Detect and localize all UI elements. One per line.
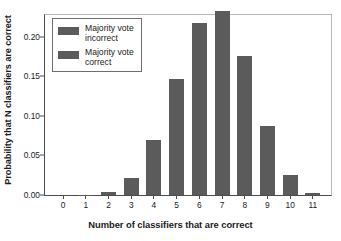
bar-slot bbox=[215, 15, 230, 195]
bar-slot bbox=[146, 15, 161, 195]
y-tick-mark bbox=[40, 36, 44, 37]
bar bbox=[260, 126, 275, 195]
legend-label: Majority vote correct bbox=[85, 47, 134, 67]
bar bbox=[283, 175, 298, 195]
x-tick: 2 bbox=[99, 195, 119, 210]
x-tick-mark bbox=[199, 195, 200, 199]
bar bbox=[169, 79, 184, 195]
x-tick: 6 bbox=[189, 195, 209, 210]
bar bbox=[215, 11, 230, 195]
bar-slot bbox=[169, 15, 184, 195]
y-tick-label: 0.20 bbox=[16, 32, 40, 42]
chart-legend: Majority vote incorrectMajority vote cor… bbox=[52, 18, 142, 72]
legend-swatch bbox=[58, 27, 79, 35]
x-tick-mark bbox=[108, 195, 109, 199]
x-tick: 3 bbox=[121, 195, 141, 210]
x-tick: 4 bbox=[144, 195, 164, 210]
x-tick-mark bbox=[85, 195, 86, 199]
x-tick-label: 1 bbox=[76, 200, 96, 210]
x-tick-label: 6 bbox=[189, 200, 209, 210]
bar-slot bbox=[192, 15, 207, 195]
x-axis-ticks: 01234567891011 bbox=[45, 195, 331, 219]
x-tick-mark bbox=[290, 195, 291, 199]
x-tick: 9 bbox=[257, 195, 277, 210]
x-tick-mark bbox=[176, 195, 177, 199]
x-axis-title: Number of classifiers that are correct bbox=[0, 219, 341, 230]
legend-label: Majority vote incorrect bbox=[85, 23, 134, 43]
x-tick-mark bbox=[131, 195, 132, 199]
x-tick-label: 11 bbox=[303, 200, 323, 210]
x-tick-label: 3 bbox=[121, 200, 141, 210]
bar bbox=[237, 56, 252, 195]
y-tick-mark bbox=[40, 76, 44, 77]
y-axis-title: Probability that N classifiers are corre… bbox=[3, 15, 13, 184]
y-tick-label: 0.10 bbox=[16, 111, 40, 121]
legend-entry: Majority vote incorrect bbox=[58, 23, 134, 43]
x-tick: 0 bbox=[53, 195, 73, 210]
x-tick-mark bbox=[312, 195, 313, 199]
chart-figure: Probability that N classifiers are corre… bbox=[0, 0, 341, 241]
bar-slot bbox=[305, 15, 320, 195]
x-tick-label: 9 bbox=[257, 200, 277, 210]
x-tick: 10 bbox=[280, 195, 300, 210]
x-tick: 11 bbox=[303, 195, 323, 210]
bar-slot bbox=[260, 15, 275, 195]
x-tick: 1 bbox=[76, 195, 96, 210]
legend-entry: Majority vote correct bbox=[58, 47, 134, 67]
bar bbox=[146, 140, 161, 195]
x-tick: 5 bbox=[167, 195, 187, 210]
y-tick-mark bbox=[40, 155, 44, 156]
y-tick-mark bbox=[40, 115, 44, 116]
x-tick: 8 bbox=[235, 195, 255, 210]
x-tick-mark bbox=[153, 195, 154, 199]
x-tick-label: 0 bbox=[53, 200, 73, 210]
bar-slot bbox=[237, 15, 252, 195]
bar-slot bbox=[283, 15, 298, 195]
x-tick-label: 4 bbox=[144, 200, 164, 210]
x-tick-label: 2 bbox=[99, 200, 119, 210]
x-tick-label: 8 bbox=[235, 200, 255, 210]
y-tick-label: 0.05 bbox=[16, 150, 40, 160]
x-tick-mark bbox=[244, 195, 245, 199]
x-tick-mark bbox=[222, 195, 223, 199]
x-tick-label: 5 bbox=[167, 200, 187, 210]
bar bbox=[192, 23, 207, 195]
x-tick-mark bbox=[267, 195, 268, 199]
y-tick-mark bbox=[40, 195, 44, 196]
y-tick-label: 0.00 bbox=[16, 190, 40, 200]
y-tick-label: 0.15 bbox=[16, 71, 40, 81]
x-tick-label: 10 bbox=[280, 200, 300, 210]
y-axis-ticks: 0.000.050.100.150.20 bbox=[14, 0, 40, 241]
x-tick: 7 bbox=[212, 195, 232, 210]
x-tick-mark bbox=[63, 195, 64, 199]
bar bbox=[124, 178, 139, 195]
legend-swatch bbox=[58, 51, 79, 59]
x-tick-label: 7 bbox=[212, 200, 232, 210]
